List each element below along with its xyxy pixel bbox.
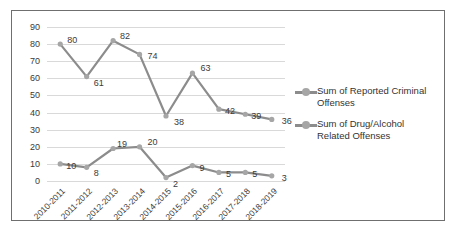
data-point-marker (243, 112, 248, 117)
data-point-label: 74 (148, 52, 158, 61)
data-point-label: 82 (120, 32, 130, 41)
legend-line-marker-icon (295, 86, 317, 98)
data-point-marker (84, 165, 89, 170)
chart-container: 0102030405060708090 2010-20112011-201220… (11, 10, 445, 221)
data-point-marker (216, 170, 221, 175)
data-point-marker (111, 146, 116, 151)
legend-item-label: Sum of Drug/Alcohol Related Offenses (317, 118, 437, 142)
data-point-label: 5 (252, 170, 257, 179)
data-point-marker (243, 170, 248, 175)
data-point-label: 63 (200, 64, 210, 73)
data-point-marker (190, 163, 195, 168)
data-point-marker (84, 74, 89, 79)
legend-item-reported-criminal-offenses[interactable]: Sum of Reported Criminal Offenses (295, 85, 443, 109)
data-point-marker (137, 144, 142, 149)
data-point-marker (190, 71, 195, 76)
data-point-marker (269, 173, 274, 178)
legend-item-label: Sum of Reported Criminal Offenses (317, 85, 437, 109)
data-point-marker (216, 107, 221, 112)
data-point-label: 80 (67, 36, 77, 45)
data-point-label: 10 (66, 162, 76, 171)
legend-item-drug-alcohol-related-offenses[interactable]: Sum of Drug/Alcohol Related Offenses (295, 118, 443, 142)
data-point-label: 36 (282, 117, 292, 126)
data-point-label: 38 (174, 118, 184, 127)
data-point-marker (58, 161, 63, 166)
data-point-label: 61 (94, 79, 104, 88)
series-line (60, 147, 272, 178)
data-point-marker (58, 42, 63, 47)
data-point-label: 5 (226, 170, 231, 179)
data-point-label: 9 (199, 164, 204, 173)
data-point-marker (163, 175, 168, 180)
data-point-label: 2 (173, 180, 178, 189)
data-point-marker (163, 113, 168, 118)
chart-legend: Sum of Reported Criminal Offenses Sum of… (295, 85, 443, 151)
data-point-label: 8 (94, 169, 99, 178)
data-point-label: 19 (117, 140, 127, 149)
data-point-label: 3 (282, 174, 287, 183)
data-point-marker (111, 38, 116, 43)
data-point-marker (137, 52, 142, 57)
data-point-label: 39 (251, 112, 261, 121)
data-point-label: 42 (225, 107, 235, 116)
data-point-marker (269, 117, 274, 122)
legend-line-marker-icon (295, 119, 317, 131)
data-point-label: 20 (148, 138, 158, 147)
series-line (60, 41, 272, 120)
